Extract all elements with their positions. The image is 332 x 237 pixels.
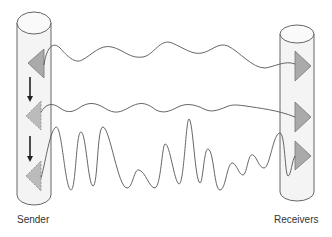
signal-wave-3	[41, 119, 295, 190]
sender-receiver-diagram: Sender Receivers	[0, 0, 332, 237]
signal-wave-1	[44, 42, 295, 68]
sender-label: Sender	[17, 214, 49, 225]
diagram-canvas	[0, 0, 332, 237]
signal-wave-2	[41, 103, 295, 117]
receivers-label: Receivers	[274, 214, 318, 225]
